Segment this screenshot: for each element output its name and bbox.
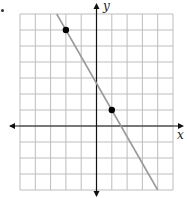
y-axis-label: y xyxy=(103,0,110,13)
coordinate-plane xyxy=(0,0,187,198)
data-point xyxy=(109,107,115,113)
x-axis-label: x xyxy=(177,128,184,142)
data-point xyxy=(63,27,69,33)
